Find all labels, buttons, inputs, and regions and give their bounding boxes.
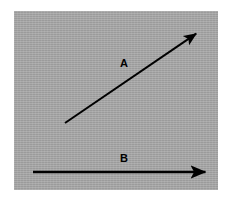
vector-a-group: A [65,34,196,123]
figure-root: A B [0,0,234,202]
vector-diagram: A B [0,0,234,202]
vector-a-arrow [65,34,196,123]
vector-b-group: B [33,152,205,172]
vector-b-label: B [120,152,128,164]
vector-a-label: A [120,57,128,69]
